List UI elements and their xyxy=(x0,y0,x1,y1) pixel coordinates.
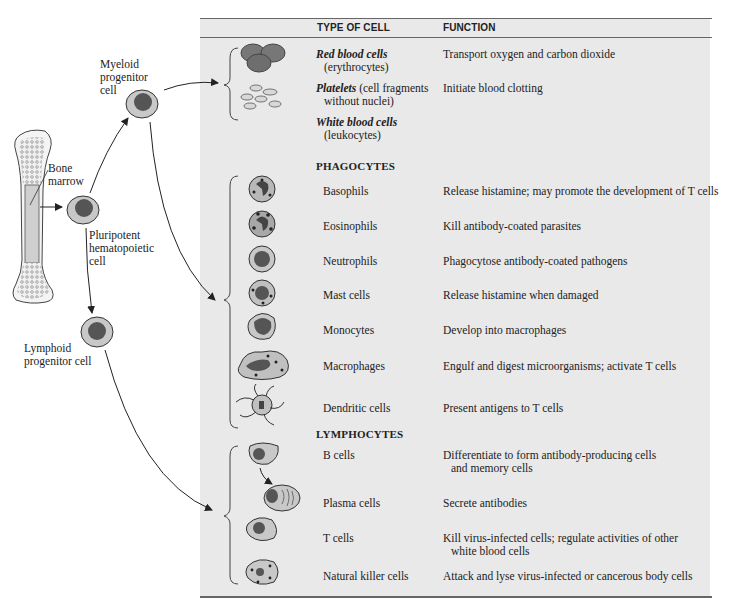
t-cell-icon xyxy=(246,518,276,541)
macrophage-icon xyxy=(238,351,288,380)
monocyte-icon xyxy=(248,313,275,339)
b-cell-icon xyxy=(249,443,278,464)
basophil-icon xyxy=(249,176,275,202)
myeloid-cell-icon xyxy=(126,90,158,118)
diagram-graphics xyxy=(0,0,745,616)
red-blood-cells-icon xyxy=(241,44,285,72)
neutrophil-icon xyxy=(249,246,275,272)
plasma-cell-icon xyxy=(264,485,300,511)
mast-cell-icon xyxy=(249,280,275,306)
pluripotent-cell-icon xyxy=(67,196,99,224)
eosinophil-icon xyxy=(249,211,275,237)
lymphoid-cell-icon xyxy=(81,317,113,347)
platelets-icon xyxy=(241,85,281,109)
bone-icon xyxy=(13,130,53,303)
dendritic-cell-icon xyxy=(236,384,284,425)
natural-killer-cell-icon xyxy=(246,560,278,585)
